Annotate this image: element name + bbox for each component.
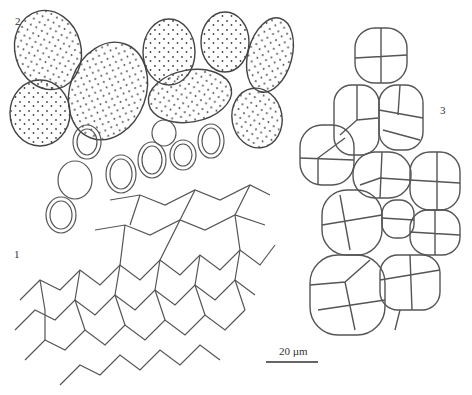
- scale-bar-label: 20 µm: [279, 345, 308, 357]
- spores-panel: [6, 3, 301, 152]
- polygonal-cells-panel: [15, 120, 275, 385]
- panel-label-2: 2: [15, 15, 21, 27]
- panel-label-1: 1: [14, 248, 20, 260]
- panel-label-3: 3: [440, 104, 446, 116]
- septate-bodies-panel: [300, 28, 460, 335]
- figure: 2 1 3 20 µm: [0, 0, 472, 395]
- illustration: [0, 0, 472, 395]
